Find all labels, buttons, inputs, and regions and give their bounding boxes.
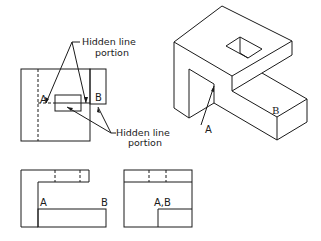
projection-drawing: A B Hidden line portion Hidden line port… <box>0 0 321 241</box>
arrowhead-icon <box>84 97 88 103</box>
iso-hole <box>226 37 262 58</box>
iso-label-a: A <box>205 124 212 135</box>
leader-line <box>72 42 86 103</box>
side-view-label-ab: A,B <box>154 197 171 208</box>
front-view-outline <box>21 170 89 227</box>
iso-leg-inner-top <box>189 69 214 84</box>
iso-label-b: B <box>272 105 279 116</box>
iso-bottom-bar-end <box>277 99 307 140</box>
note-bottom-line2: portion <box>128 137 162 148</box>
iso-hole-depth <box>240 53 248 58</box>
front-view-label-b: B <box>101 197 108 208</box>
front-view-bottom-bar <box>38 209 106 227</box>
top-view-label-b: B <box>95 92 102 103</box>
iso-bottom-bar-end-top <box>277 99 307 117</box>
isometric-view: A B <box>174 6 307 140</box>
bottom-leader-annotation: Hidden line portion <box>67 107 170 148</box>
arrowhead-icon <box>211 86 214 92</box>
note-top-line2: portion <box>95 47 129 58</box>
front-view: A B <box>21 170 108 227</box>
front-view-label-a: A <box>40 197 47 208</box>
side-view: A,B <box>124 170 192 227</box>
iso-bottom-bar-front <box>214 103 277 140</box>
top-view: A B <box>21 69 106 141</box>
iso-bottom-bar-back-edge <box>262 73 307 99</box>
leader-line <box>46 42 72 103</box>
iso-leader-a <box>201 86 214 125</box>
side-view-step <box>158 209 192 227</box>
note-top-line1: Hidden line <box>82 36 136 47</box>
iso-bottom-bar-top-edge <box>232 91 277 117</box>
